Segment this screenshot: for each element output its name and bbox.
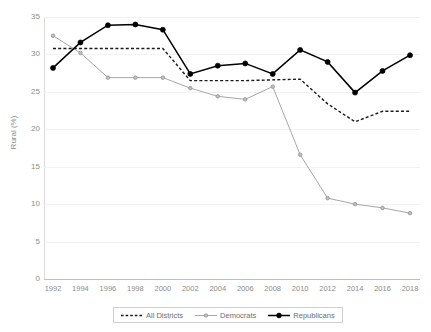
legend-item-republicans[interactable]: Republicans <box>268 311 334 320</box>
data-point-republicans <box>243 61 248 66</box>
data-point-democrats <box>326 196 330 200</box>
legend-label: Democrats <box>220 311 256 320</box>
data-point-democrats <box>381 206 385 210</box>
series-plot-area <box>0 0 431 332</box>
series-line-all-districts <box>53 48 410 121</box>
data-point-democrats <box>298 153 302 157</box>
data-point-democrats <box>243 98 247 102</box>
data-point-republicans <box>298 47 303 52</box>
data-point-republicans <box>51 65 56 70</box>
data-point-democrats <box>79 51 83 55</box>
data-point-democrats <box>353 202 357 206</box>
data-point-democrats <box>51 34 55 38</box>
data-point-republicans <box>105 23 110 28</box>
legend-item-democrats[interactable]: Democrats <box>195 311 256 320</box>
data-point-republicans <box>325 59 330 64</box>
series-line-republicans <box>53 24 410 92</box>
legend-item-all-districts[interactable]: All Districts <box>121 311 183 320</box>
data-point-republicans <box>133 22 138 27</box>
data-point-republicans <box>78 40 83 45</box>
legend-swatch-icon <box>121 311 143 320</box>
data-point-democrats <box>106 76 110 80</box>
data-point-republicans <box>160 27 165 32</box>
legend-label: Republicans <box>293 311 334 320</box>
data-point-democrats <box>161 76 165 80</box>
data-point-democrats <box>216 95 220 99</box>
chart-legend: All DistrictsDemocratsRepublicans <box>113 307 343 323</box>
data-point-democrats <box>408 211 412 215</box>
data-point-democrats <box>271 85 275 89</box>
legend-label: All Districts <box>146 311 183 320</box>
series-line-democrats <box>53 36 410 213</box>
legend-swatch-icon <box>268 311 290 320</box>
legend-swatch-icon <box>195 311 217 320</box>
data-point-republicans <box>188 71 193 76</box>
rural-percent-line-chart: 05101520253035 Rural (%) 199219941996199… <box>0 0 431 332</box>
data-point-democrats <box>189 86 193 90</box>
data-point-republicans <box>215 63 220 68</box>
data-point-republicans <box>270 71 275 76</box>
data-point-republicans <box>380 68 385 73</box>
data-point-republicans <box>408 53 413 58</box>
data-point-democrats <box>134 76 138 80</box>
data-point-republicans <box>353 90 358 95</box>
